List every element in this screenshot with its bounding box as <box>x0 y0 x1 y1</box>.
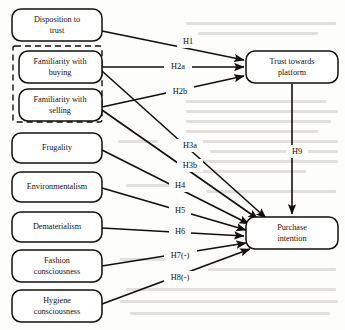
node-hygiene-consciousness[interactable]: Hygiene consciousness <box>12 290 102 322</box>
edge-label-h3b: H3b <box>183 161 197 170</box>
edge-label-h7: H7(-) <box>171 251 190 260</box>
node-fashion-consciousness[interactable]: Fashion consciousness <box>12 250 102 282</box>
node-label-line1: Familiarity with <box>34 57 87 66</box>
node-label-line2: platform <box>278 68 307 77</box>
node-label-line2: selling <box>49 106 71 115</box>
node-familiarity-with-buying[interactable]: Familiarity with buying <box>19 51 102 83</box>
node-label-line1: Hygiene <box>43 296 71 305</box>
node-label-line1: Fashion <box>44 256 70 265</box>
node-label-line1: Trust towards <box>270 57 315 66</box>
node-label-line2: intention <box>277 234 306 243</box>
node-label-line2: trust <box>50 26 65 35</box>
edge-label-h2a: H2a <box>171 62 185 71</box>
node-label-line2: buying <box>49 68 72 77</box>
node-label-line1: Purchase <box>277 223 307 232</box>
node-label-line1: Dematerialism <box>33 222 82 231</box>
node-disposition-to-trust[interactable]: Disposition to trust <box>12 9 102 41</box>
node-label-line2: consciousness <box>34 267 80 276</box>
node-environmentalism[interactable]: Environmentalism <box>12 172 102 202</box>
edge-label-h1: H1 <box>183 37 193 46</box>
research-model-diagram: H1 H2a H2b H3a H3b H4 H5 H6 H7(-) H8(-) … <box>0 0 345 330</box>
node-frugality[interactable]: Frugality <box>12 133 102 163</box>
edge-label-h5: H5 <box>175 206 185 215</box>
node-dematerialism[interactable]: Dematerialism <box>12 212 102 242</box>
edge-label-h6: H6 <box>175 227 185 236</box>
edge-label-h9: H9 <box>292 147 302 156</box>
edge-h1-line <box>102 31 244 60</box>
node-purchase-intention[interactable]: Purchase intention <box>246 217 338 249</box>
edge-label-h8: H8(-) <box>171 273 190 282</box>
node-familiarity-with-selling[interactable]: Familiarity with selling <box>19 89 102 121</box>
node-label-line2: consciousness <box>34 307 80 316</box>
node-label-line1: Frugality <box>42 143 73 152</box>
node-label-line1: Environmentalism <box>27 182 88 191</box>
node-label-line1: Familiarity with <box>34 95 87 104</box>
node-label-line1: Disposition to <box>34 15 80 24</box>
edge-label-h3a: H3a <box>183 141 197 150</box>
node-trust-towards-platform[interactable]: Trust towards platform <box>246 51 338 83</box>
diagram-canvas: H1 H2a H2b H3a H3b H4 H5 H6 H7(-) H8(-) … <box>0 0 345 330</box>
edge-label-h4: H4 <box>175 181 186 190</box>
edge-label-h2b: H2b <box>173 87 187 96</box>
